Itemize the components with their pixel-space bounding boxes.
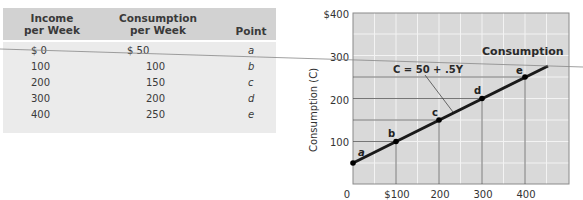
y-tick-300: 300 [330,52,349,63]
x-tick-100: $100 [384,189,409,200]
y-tick-400: $400 [324,9,349,20]
point-c [436,117,442,123]
x-tick-200: 200 [430,189,449,200]
x-tick-0: 0 [344,189,350,200]
x-tick-300: 300 [473,189,492,200]
x-tick-400: 400 [516,189,535,200]
x-tick-labels: 0 $100 200 300 400 [344,189,536,200]
point-label-e: e [516,65,523,76]
point-label-d: d [474,85,481,96]
y-tick-100: 100 [330,137,349,148]
curve-name-label: Consumption [482,45,564,58]
consumption-chart: a b c d e Consumption C = 50 + .5Y $400 … [0,0,583,200]
y-tick-200: 200 [330,95,349,106]
equation-label: C = 50 + .5Y [393,64,464,75]
y-tick-labels: $400 300 200 100 [324,9,349,148]
point-d [479,96,485,102]
point-b [393,139,399,145]
point-label-c: c [432,107,438,118]
point-label-b: b [388,128,395,139]
y-axis-label: Consumption (C) [308,68,319,152]
point-a [350,160,356,166]
point-e [522,74,528,80]
point-label-a: a [358,147,365,158]
